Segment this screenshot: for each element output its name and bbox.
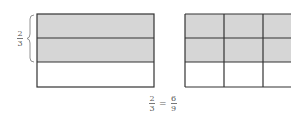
equivalence-equation: 2 3 = 6 9 <box>149 95 177 112</box>
equivalent-fractions-diagram: 2 3 2 3 = 6 9 <box>0 0 291 118</box>
equation-left-denominator: 3 <box>149 105 154 112</box>
equals-sign: = <box>159 99 167 109</box>
equation-right-numerator: 6 <box>171 95 176 102</box>
left-label-numerator: 2 <box>17 30 22 37</box>
left-label-denominator: 3 <box>17 40 22 47</box>
equation-left-fraction: 2 3 <box>149 95 155 112</box>
fraction-models <box>0 0 291 118</box>
left-fraction-model <box>37 14 154 87</box>
curly-brace-icon <box>27 15 34 62</box>
equation-right-denominator: 9 <box>171 105 176 112</box>
equation-right-fraction: 6 9 <box>171 95 177 112</box>
right-fraction-model <box>185 14 291 87</box>
equation-left-numerator: 2 <box>149 95 154 102</box>
left-fraction-label: 2 3 <box>17 30 23 47</box>
